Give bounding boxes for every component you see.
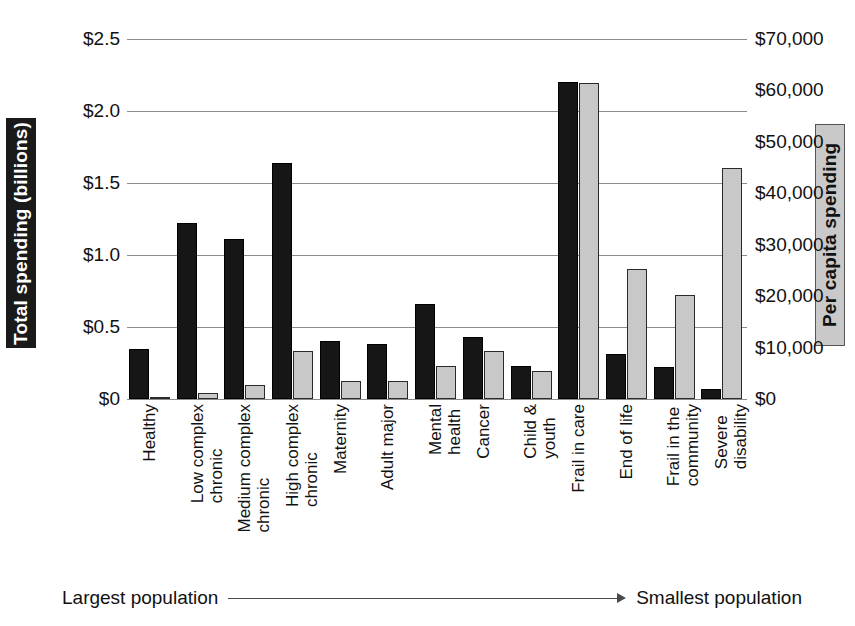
category-label: Low complex chronic	[188, 404, 226, 503]
bar-total-spending	[224, 239, 244, 399]
largest-population-label: Largest population	[62, 587, 218, 609]
bar-per-capita-spending	[722, 168, 742, 399]
bar-total-spending	[272, 163, 292, 399]
bar-total-spending	[463, 337, 483, 399]
left-tick-label: $0.5	[83, 316, 120, 338]
bar-total-spending	[177, 223, 197, 399]
bar-group	[699, 39, 747, 399]
bar-chart: Total spending (billions) Per capita spe…	[0, 0, 855, 626]
left-tick-label: $0	[99, 388, 120, 410]
left-axis-tick-labels: $0$0.5$1.0$1.5$2.0$2.5	[30, 39, 120, 399]
category-label: Child & youth	[521, 404, 559, 459]
category-label: Frail in the community	[664, 404, 702, 486]
category-axis-labels: HealthyLow complex chronicMedium complex…	[127, 404, 747, 574]
category-label: Adult major	[378, 404, 397, 490]
bar-per-capita-spending	[388, 381, 408, 399]
category-label: End of life	[617, 404, 636, 480]
bar-total-spending	[511, 366, 531, 399]
bar-per-capita-spending	[245, 385, 265, 399]
bar-per-capita-spending	[532, 371, 552, 399]
bar-total-spending	[606, 354, 626, 399]
left-tick-label: $2.5	[83, 28, 120, 50]
bar-per-capita-spending	[198, 393, 218, 399]
right-arrow-icon	[228, 593, 626, 603]
bar-total-spending	[654, 367, 674, 399]
bar-group	[222, 39, 270, 399]
left-tick-label: $1.5	[83, 172, 120, 194]
category-label: Cancer	[474, 404, 493, 459]
category-label: Medium complex chronic	[235, 404, 273, 533]
bar-total-spending	[129, 349, 149, 399]
right-axis-tick-labels: $0$10,000$20,000$30,000$40,000$50,000$60…	[755, 39, 855, 399]
bar-group	[365, 39, 413, 399]
bar-group	[127, 39, 175, 399]
bar-group	[413, 39, 461, 399]
bar-group	[509, 39, 557, 399]
smallest-population-label: Smallest population	[636, 587, 802, 609]
plot-area	[127, 39, 747, 399]
category-label: Maternity	[331, 404, 350, 474]
bar-total-spending	[701, 389, 721, 399]
right-tick-label: $0	[755, 388, 776, 410]
category-label: Frail in care	[569, 404, 588, 493]
right-tick-label: $40,000	[755, 182, 824, 204]
bar-group	[270, 39, 318, 399]
right-tick-label: $30,000	[755, 234, 824, 256]
bar-total-spending	[415, 304, 435, 399]
bar-group	[652, 39, 700, 399]
bar-group	[318, 39, 366, 399]
right-tick-label: $20,000	[755, 285, 824, 307]
bar-group	[175, 39, 223, 399]
bar-total-spending	[558, 82, 578, 399]
gridline	[127, 399, 747, 400]
bar-per-capita-spending	[436, 366, 456, 399]
left-tick-label: $1.0	[83, 244, 120, 266]
category-label: Severe disability	[712, 404, 750, 469]
category-label: Healthy	[140, 404, 159, 462]
bar-total-spending	[320, 341, 340, 399]
bar-group	[461, 39, 509, 399]
right-tick-label: $50,000	[755, 131, 824, 153]
bar-per-capita-spending	[675, 295, 695, 399]
bar-total-spending	[367, 344, 387, 399]
category-label: Mental health	[426, 404, 464, 455]
bar-per-capita-spending	[579, 83, 599, 399]
bar-group	[604, 39, 652, 399]
right-tick-label: $60,000	[755, 79, 824, 101]
category-label: High complex chronic	[283, 404, 321, 507]
right-tick-label: $70,000	[755, 28, 824, 50]
bar-group	[556, 39, 604, 399]
bar-per-capita-spending	[293, 351, 313, 399]
left-tick-label: $2.0	[83, 100, 120, 122]
bar-per-capita-spending	[484, 351, 504, 399]
bar-per-capita-spending	[150, 397, 170, 399]
population-range-annotation: Largest population Smallest population	[62, 583, 802, 613]
bar-per-capita-spending	[341, 381, 361, 400]
bar-per-capita-spending	[627, 269, 647, 399]
right-tick-label: $10,000	[755, 337, 824, 359]
